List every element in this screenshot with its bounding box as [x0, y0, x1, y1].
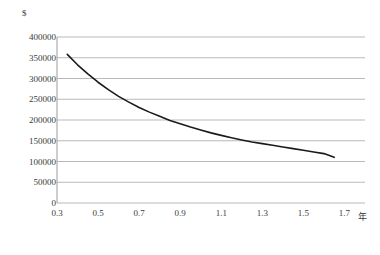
x-tick-label: 0.7 [134, 208, 145, 218]
x-tick-label: 0.5 [92, 208, 103, 218]
y-tick-label: 0 [52, 198, 57, 208]
chart-container: $ 年 050000100000150000200000250000300000… [0, 0, 380, 255]
series-line [67, 54, 334, 157]
y-tick-label: 150000 [29, 136, 56, 146]
gridlines [57, 37, 365, 203]
x-tick-label: 1.5 [298, 208, 309, 218]
x-tick-label: 1.7 [339, 208, 350, 218]
x-tick-label: 0.9 [175, 208, 186, 218]
y-tick-label: 100000 [29, 157, 56, 167]
x-tick-label: 0.3 [51, 208, 62, 218]
x-tick-label: 1.1 [216, 208, 227, 218]
y-tick-label: 300000 [29, 74, 56, 84]
y-tick-label: 50000 [34, 177, 57, 187]
y-tick-label: 400000 [29, 32, 56, 42]
data-series [67, 54, 334, 157]
x-tick-label: 1.3 [257, 208, 268, 218]
y-tick-label: 250000 [29, 94, 56, 104]
y-tick-label: 200000 [29, 115, 56, 125]
y-tick-label: 350000 [29, 53, 56, 63]
